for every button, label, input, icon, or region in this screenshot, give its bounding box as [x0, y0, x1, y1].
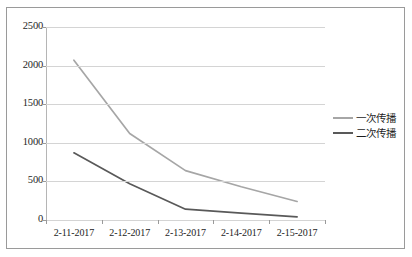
- x-tick-mark: [158, 220, 159, 224]
- x-tick-mark: [46, 220, 47, 224]
- y-tick-mark: [42, 220, 46, 221]
- legend-label: 一次传播: [356, 112, 396, 124]
- plot-area: [46, 27, 325, 220]
- y-tick-label: 500: [9, 175, 43, 185]
- y-tick-label: 2000: [9, 60, 43, 70]
- x-tick-label: 2-13-2017: [165, 227, 206, 238]
- y-tick-mark: [42, 181, 46, 182]
- x-tick-label: 2-11-2017: [54, 227, 94, 238]
- x-tick-mark: [325, 220, 326, 224]
- gridline: [46, 104, 325, 105]
- series-line: [74, 60, 297, 201]
- y-tick-label: 0: [9, 214, 43, 224]
- x-tick-label: 2-12-2017: [109, 227, 150, 238]
- y-tick-mark: [42, 143, 46, 144]
- y-tick-mark: [42, 104, 46, 105]
- y-axis-labels: 25002000150010005000: [7, 8, 43, 250]
- legend-item[interactable]: 二次传播: [333, 126, 403, 140]
- gridline: [46, 143, 325, 144]
- legend-color-swatch: [333, 117, 353, 119]
- chart-frame: 25002000150010005000 2-11-20172-12-20172…: [6, 7, 405, 249]
- legend-color-swatch: [333, 132, 353, 134]
- x-tick-label: 2-15-2017: [277, 227, 318, 238]
- y-tick-label: 1500: [9, 98, 43, 108]
- series-group: [46, 27, 325, 220]
- y-tick-mark: [42, 27, 46, 28]
- gridline: [46, 27, 325, 28]
- chart-legend: 一次传播二次传播: [333, 111, 403, 141]
- legend-label: 二次传播: [356, 127, 396, 139]
- x-tick-mark: [102, 220, 103, 224]
- legend-item[interactable]: 一次传播: [333, 111, 403, 125]
- y-tick-label: 2500: [9, 21, 43, 31]
- gridline: [46, 220, 325, 221]
- gridline: [46, 181, 325, 182]
- x-tick-mark: [213, 220, 214, 224]
- series-line: [74, 153, 297, 217]
- x-tick-mark: [269, 220, 270, 224]
- gridline: [46, 66, 325, 67]
- y-tick-label: 1000: [9, 137, 43, 147]
- x-tick-label: 2-14-2017: [221, 227, 262, 238]
- y-tick-mark: [42, 66, 46, 67]
